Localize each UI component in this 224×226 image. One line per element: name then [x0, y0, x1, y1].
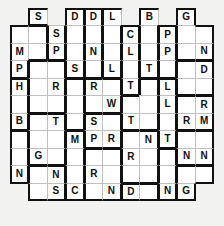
grid-cell[interactable] [121, 130, 141, 149]
grid-cell[interactable]: N [139, 130, 159, 149]
grid-cell[interactable]: S [28, 8, 48, 27]
grid-cell[interactable]: N [84, 43, 104, 62]
grid-cell[interactable] [158, 148, 178, 167]
grid-cell[interactable] [139, 95, 159, 114]
grid-cell[interactable] [47, 148, 67, 167]
grid-cell[interactable] [158, 60, 178, 79]
grid-cell[interactable]: T [121, 78, 141, 97]
grid-cell[interactable] [47, 130, 67, 149]
grid-cell[interactable] [10, 95, 30, 114]
grid-cell[interactable] [28, 43, 48, 62]
grid-cell[interactable]: P [158, 43, 178, 62]
grid-cell[interactable] [47, 60, 67, 79]
grid-cell[interactable] [195, 130, 215, 149]
grid-cell[interactable]: B [10, 113, 30, 132]
grid-cell[interactable]: M [195, 113, 215, 132]
grid-cell[interactable] [176, 60, 196, 79]
grid-cell[interactable] [28, 113, 48, 132]
grid-cell[interactable] [84, 60, 104, 79]
grid-cell[interactable]: H [10, 78, 30, 97]
grid-cell[interactable] [195, 78, 215, 97]
grid-cell[interactable] [176, 130, 196, 149]
grid-cell[interactable] [84, 25, 104, 44]
grid-cell[interactable]: P [47, 43, 67, 62]
grid-cell[interactable] [176, 25, 196, 44]
grid-cell[interactable] [28, 78, 48, 97]
grid-cell[interactable] [28, 165, 48, 184]
grid-cell[interactable] [28, 130, 48, 149]
grid-cell[interactable]: M [65, 130, 85, 149]
grid-cell[interactable] [121, 165, 141, 184]
grid-cell[interactable]: P [158, 25, 178, 44]
grid-cell[interactable] [176, 43, 196, 62]
grid-cell[interactable] [102, 165, 122, 184]
grid-cell[interactable]: S [84, 113, 104, 132]
grid-cell[interactable] [65, 165, 85, 184]
grid-cell[interactable]: L [158, 95, 178, 114]
grid-cell[interactable] [28, 60, 48, 79]
grid-cell[interactable] [158, 113, 178, 132]
grid-cell[interactable]: D [121, 183, 141, 202]
grid-cell[interactable] [10, 25, 30, 44]
grid-cell[interactable] [65, 113, 85, 132]
grid-cell[interactable] [139, 148, 159, 167]
grid-cell[interactable] [102, 148, 122, 167]
grid-cell[interactable]: G [176, 183, 196, 202]
grid-cell[interactable]: D [84, 8, 104, 27]
grid-cell[interactable] [176, 95, 196, 114]
grid-cell[interactable] [84, 183, 104, 202]
grid-cell[interactable]: C [65, 183, 85, 202]
grid-cell[interactable]: N [102, 183, 122, 202]
grid-cell[interactable]: R [102, 130, 122, 149]
grid-cell[interactable]: N [158, 183, 178, 202]
grid-cell[interactable] [139, 25, 159, 44]
grid-cell[interactable]: R [176, 113, 196, 132]
grid-cell[interactable]: L [121, 43, 141, 62]
grid-cell[interactable]: G [28, 148, 48, 167]
grid-cell[interactable]: N [195, 43, 215, 62]
grid-cell[interactable] [65, 25, 85, 44]
grid-cell[interactable]: N [176, 148, 196, 167]
grid-cell[interactable]: S [47, 25, 67, 44]
grid-cell[interactable] [84, 148, 104, 167]
grid-cell[interactable] [10, 148, 30, 167]
grid-cell[interactable]: T [158, 130, 178, 149]
grid-cell[interactable] [28, 25, 48, 44]
grid-cell[interactable]: B [139, 8, 159, 27]
grid-cell[interactable] [84, 95, 104, 114]
grid-cell[interactable] [10, 130, 30, 149]
grid-cell[interactable]: C [121, 25, 141, 44]
grid-cell[interactable]: N [195, 148, 215, 167]
grid-cell[interactable] [139, 113, 159, 132]
grid-cell[interactable] [176, 78, 196, 97]
grid-cell[interactable] [176, 165, 196, 184]
grid-cell[interactable]: R [84, 78, 104, 97]
grid-cell[interactable]: W [102, 95, 122, 114]
grid-cell[interactable]: M [10, 43, 30, 62]
grid-cell[interactable]: T [139, 60, 159, 79]
grid-cell[interactable]: N [10, 165, 30, 184]
grid-cell[interactable]: R [47, 78, 67, 97]
grid-cell[interactable] [47, 95, 67, 114]
grid-cell[interactable]: N [47, 165, 67, 184]
grid-cell[interactable] [158, 165, 178, 184]
grid-cell[interactable] [195, 25, 215, 44]
grid-cell[interactable] [139, 43, 159, 62]
grid-cell[interactable]: D [65, 8, 85, 27]
grid-cell[interactable] [195, 165, 215, 184]
grid-cell[interactable] [65, 148, 85, 167]
grid-cell[interactable]: R [84, 165, 104, 184]
grid-cell[interactable] [139, 183, 159, 202]
grid-cell[interactable] [102, 78, 122, 97]
grid-cell[interactable] [28, 95, 48, 114]
grid-cell[interactable] [139, 78, 159, 97]
grid-cell[interactable] [102, 113, 122, 132]
grid-cell[interactable] [65, 78, 85, 97]
grid-cell[interactable] [102, 25, 122, 44]
grid-cell[interactable] [65, 95, 85, 114]
grid-cell[interactable]: L [102, 60, 122, 79]
grid-cell[interactable]: D [195, 60, 215, 79]
grid-cell[interactable] [121, 95, 141, 114]
grid-cell[interactable] [102, 43, 122, 62]
grid-cell[interactable]: R [121, 148, 141, 167]
